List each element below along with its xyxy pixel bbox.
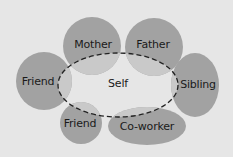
node-label-coworker: Co-worker bbox=[120, 120, 174, 133]
self-label: Self bbox=[108, 77, 128, 90]
node-label-sibling: Sibling bbox=[180, 78, 216, 91]
node-label-friend-bottom: Friend bbox=[64, 117, 97, 130]
node-label-friend-left: Friend bbox=[22, 75, 55, 88]
relationship-diagram: MotherFatherFriendSiblingFriendCo-worker… bbox=[0, 0, 233, 157]
node-label-mother: Mother bbox=[74, 38, 112, 51]
node-label-father: Father bbox=[136, 38, 169, 51]
